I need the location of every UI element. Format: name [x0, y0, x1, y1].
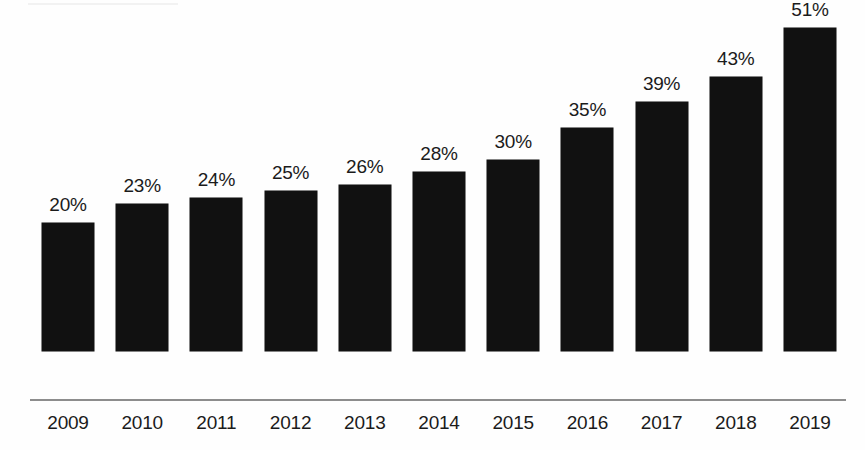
bar-value-label: 39% — [643, 74, 680, 93]
x-axis-tick-label: 2010 — [116, 412, 168, 434]
x-axis-tick-label: 2011 — [190, 412, 242, 434]
bar-rect[interactable] — [561, 128, 613, 351]
bar-rect[interactable] — [636, 102, 688, 351]
bar-value-label: 25% — [272, 163, 309, 182]
bar-rect[interactable] — [339, 185, 391, 351]
bar-group[interactable]: 20% — [42, 0, 94, 351]
bar-rect[interactable] — [116, 204, 168, 351]
bar-value-label: 35% — [569, 100, 606, 119]
x-axis-tick-label: 2018 — [710, 412, 762, 434]
bar-value-label: 26% — [346, 157, 383, 176]
bar-rect[interactable] — [42, 223, 94, 351]
bar-value-label: 43% — [717, 49, 754, 68]
bar-rect[interactable] — [190, 198, 242, 351]
bar-group[interactable]: 25% — [265, 0, 317, 351]
bar-group[interactable]: 39% — [636, 0, 688, 351]
bar-group[interactable]: 24% — [190, 0, 242, 351]
bar-rect[interactable] — [413, 172, 465, 351]
x-axis-tick-label: 2019 — [784, 412, 836, 434]
x-axis-tick-label: 2009 — [42, 412, 94, 434]
x-axis-tick-label: 2017 — [636, 412, 688, 434]
bar-rect[interactable] — [710, 77, 762, 351]
bar-group[interactable]: 43% — [710, 0, 762, 351]
bar-group[interactable]: 30% — [487, 0, 539, 351]
x-axis-tick-label: 2014 — [413, 412, 465, 434]
bar-rect[interactable] — [784, 28, 836, 351]
bar-group[interactable]: 23% — [116, 0, 168, 351]
x-axis-tick-label: 2015 — [487, 412, 539, 434]
bar-group[interactable]: 35% — [561, 0, 613, 351]
bar-value-label: 23% — [123, 176, 160, 195]
bar-group[interactable]: 51% — [784, 0, 836, 351]
bar-value-label: 51% — [791, 0, 828, 19]
x-axis-line — [30, 399, 846, 401]
bar-value-label: 30% — [494, 132, 531, 151]
bar-rect[interactable] — [265, 191, 317, 351]
bar-group[interactable]: 26% — [339, 0, 391, 351]
bar-chart: 20%23%24%25%26%28%30%35%39%43%51% 200920… — [0, 0, 865, 450]
plot-area: 20%23%24%25%26%28%30%35%39%43%51% — [0, 0, 865, 401]
bar-value-label: 20% — [49, 195, 86, 214]
x-axis-tick-label: 2013 — [339, 412, 391, 434]
bar-rect[interactable] — [487, 160, 539, 351]
bar-value-label: 28% — [420, 144, 457, 163]
bar-group[interactable]: 28% — [413, 0, 465, 351]
x-axis-tick-label: 2016 — [561, 412, 613, 434]
bar-value-label: 24% — [198, 170, 235, 189]
x-axis-tick-label: 2012 — [265, 412, 317, 434]
